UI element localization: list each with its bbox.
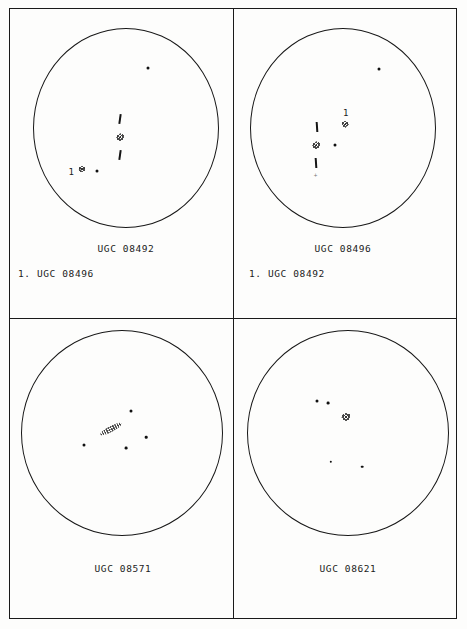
field-circle-bottom-left	[21, 330, 223, 536]
companion-label-1: 1	[343, 109, 348, 118]
faint-registration-mark: +	[314, 172, 318, 178]
star-e	[145, 436, 148, 439]
star-s	[125, 447, 128, 450]
star-n	[130, 410, 133, 413]
star-e	[333, 143, 336, 146]
figure-page: 1 UGC 08492 1. UGC 08496 1 + UGC 08496 1…	[0, 0, 467, 629]
companion-galaxy-1-symbol	[342, 121, 349, 128]
panel-note-top-right: 1. UGC 08492	[249, 268, 325, 279]
panel-bottom-left: UGC 08571	[9, 318, 233, 619]
panel-bottom-right: UGC 08621	[233, 318, 457, 619]
companion-label-1: 1	[68, 167, 73, 176]
star-se	[361, 466, 364, 469]
star-ne	[147, 67, 150, 70]
panel-title-top-left: UGC 08492	[98, 243, 155, 254]
star-sw	[96, 169, 99, 172]
primary-galaxy-symbol	[312, 141, 320, 149]
field-circle-top-right	[250, 28, 436, 228]
star-nw-b	[326, 402, 329, 405]
star-ne	[378, 68, 381, 71]
panel-title-top-right: UGC 08496	[315, 243, 372, 254]
star-w	[82, 444, 85, 447]
panel-note-top-left: 1. UGC 08496	[18, 268, 94, 279]
primary-galaxy-symbol	[116, 133, 124, 141]
field-circle-top-left	[33, 28, 219, 228]
panel-top-right: 1 + UGC 08496 1. UGC 08492	[233, 8, 457, 318]
panel-top-left: 1 UGC 08492 1. UGC 08496	[9, 8, 233, 318]
panel-title-bottom-right: UGC 08621	[320, 563, 377, 574]
companion-galaxy-1-symbol	[79, 166, 86, 173]
panel-title-bottom-left: UGC 08571	[95, 563, 152, 574]
primary-galaxy-symbol	[342, 412, 351, 421]
field-circle-bottom-right	[247, 330, 449, 536]
star-nw-a	[315, 399, 318, 402]
